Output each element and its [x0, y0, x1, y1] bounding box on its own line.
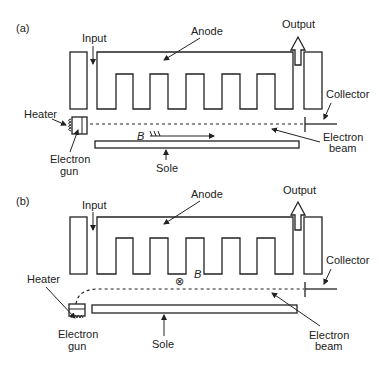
output-label: Output: [283, 184, 316, 196]
heater-label: Heater: [27, 273, 60, 285]
electron-gun-label-line1: Electron: [50, 153, 90, 165]
panel-b: (b) Input Anode Output ⊗ B Collector Hea…: [16, 184, 370, 352]
input-block: [70, 52, 87, 109]
electron-gun-label-line2: gun: [60, 165, 78, 177]
anode-leader: [164, 201, 200, 224]
collector-leader: [324, 269, 331, 284]
magnetic-field-hatch-icon: [150, 131, 160, 136]
magnetic-field-label: B: [137, 130, 144, 142]
anode-label: Anode: [191, 25, 223, 37]
sole-electrode: [92, 305, 297, 313]
magnetic-field-label: B: [194, 268, 201, 280]
output-label: Output: [282, 18, 315, 30]
panel-tag: (a): [16, 22, 29, 34]
crossed-field-tube-diagram: (a) Input Anode Output Heater Electron g…: [0, 0, 382, 368]
input-block: [70, 217, 87, 274]
panel-tag: (b): [16, 195, 29, 207]
electron-beam-leader: [272, 129, 320, 142]
output-block: [304, 217, 322, 274]
sole-label: Sole: [152, 338, 174, 350]
heater-coil-icon: [69, 119, 72, 131]
electron-beam-label-line2: beam: [315, 340, 343, 352]
collector-leader: [324, 103, 331, 119]
anode-structure: [97, 52, 293, 109]
field-into-page-icon: ⊗: [175, 275, 184, 287]
anode-leader: [164, 38, 200, 60]
electron-gun-label-line1: Electron: [58, 328, 98, 340]
collector-label: Collector: [326, 88, 370, 100]
anode-label: Anode: [191, 188, 223, 200]
panel-a: (a) Input Anode Output Heater Electron g…: [16, 18, 370, 177]
electron-beam: [76, 289, 304, 304]
sole-electrode: [95, 141, 299, 148]
heater-label: Heater: [24, 108, 57, 120]
electron-gun: [72, 117, 87, 134]
heater-leader: [52, 119, 66, 125]
electron-gun-label-line2: gun: [68, 340, 86, 352]
input-label: Input: [82, 32, 106, 44]
collector-label: Collector: [326, 254, 370, 266]
electron-beam-label-line2: beam: [329, 142, 357, 154]
sole-label: Sole: [156, 162, 178, 174]
input-label: Input: [82, 199, 106, 211]
output-block: [304, 52, 322, 109]
anode-structure: [97, 217, 293, 274]
heater-leader: [46, 287, 75, 318]
